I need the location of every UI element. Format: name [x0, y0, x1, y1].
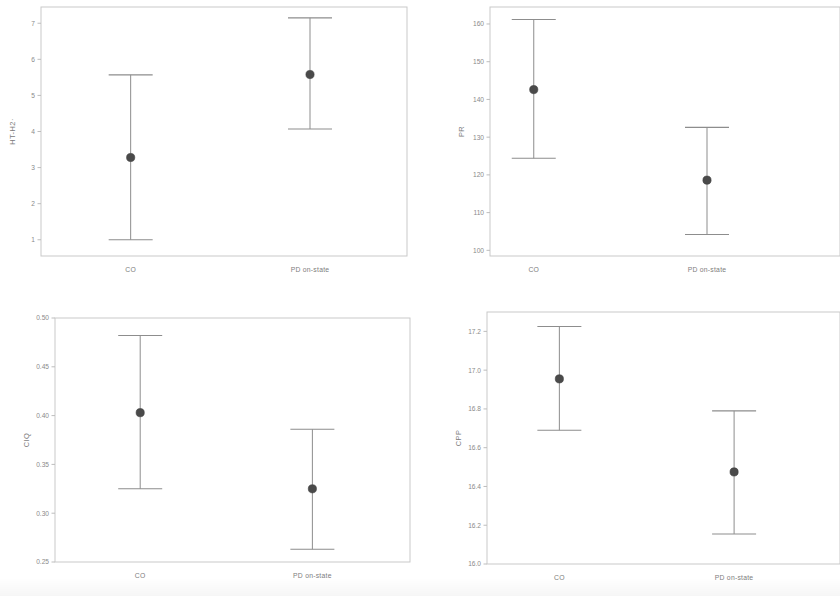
x-category-label: PD on-state: [688, 266, 727, 273]
y-tick-label: 110: [473, 209, 484, 216]
plot-frame: [490, 7, 840, 256]
plot-frame: [487, 312, 840, 564]
y-tick-label: 17.2: [468, 328, 481, 335]
plot-frame: [41, 7, 407, 256]
y-tick-label: 0.35: [36, 461, 49, 468]
y-tick-label: 1: [31, 236, 35, 243]
mean-marker: [703, 176, 711, 184]
y-axis-title: CPP: [454, 430, 463, 447]
mean-marker: [530, 86, 538, 94]
chart-panel-top-right: 100110120130140150160PRCOPD on-state: [420, 0, 840, 298]
y-tick-label: 2: [31, 200, 35, 207]
mean-marker: [136, 409, 144, 417]
y-axis-title: PR: [457, 126, 466, 137]
y-tick-label: 3: [31, 164, 35, 171]
x-category-label: CO: [528, 266, 539, 273]
chart-panel-bottom-right: 16.016.216.416.616.817.017.2CPPCOPD on-s…: [420, 298, 840, 596]
y-tick-label: 150: [473, 58, 484, 65]
y-tick-label: 100: [473, 247, 484, 254]
plot-frame: [55, 318, 410, 562]
x-category-label: CO: [125, 266, 136, 273]
y-tick-label: 17.0: [468, 367, 481, 374]
mean-marker: [306, 70, 314, 78]
y-tick-label: 120: [473, 171, 484, 178]
y-tick-label: 7: [31, 20, 35, 27]
y-tick-label: 130: [473, 134, 484, 141]
y-tick-label: 16.0: [468, 560, 481, 567]
y-tick-label: 16.8: [468, 405, 481, 412]
y-tick-label: 5: [31, 92, 35, 99]
y-axis-title: CIQ: [22, 433, 31, 448]
y-tick-label: 16.6: [468, 444, 481, 451]
y-tick-label: 0.25: [36, 558, 49, 565]
y-tick-label: 16.4: [468, 483, 481, 490]
mean-marker: [730, 468, 738, 476]
y-axis-title: HT-H2·: [8, 118, 17, 145]
plot-area-bottom-right: 16.016.216.416.616.817.017.2CPPCOPD on-s…: [420, 298, 840, 596]
y-tick-label: 140: [473, 96, 484, 103]
x-category-label: PD on-state: [715, 574, 754, 581]
y-tick-label: 6: [31, 56, 35, 63]
x-category-label: CO: [554, 574, 565, 581]
y-tick-label: 0.40: [36, 412, 49, 419]
y-tick-label: 16.2: [468, 522, 481, 529]
y-tick-label: 160: [473, 20, 484, 27]
mean-marker: [127, 153, 135, 161]
y-tick-label: 4: [31, 128, 35, 135]
x-category-label: PD on-state: [293, 572, 332, 579]
x-category-label: CO: [135, 572, 146, 579]
x-category-label: PD on-state: [291, 266, 330, 273]
plot-area-top-left: 1234567HT-H2·COPD on-state: [0, 0, 420, 298]
chart-panel-bottom-left: 0.250.300.350.400.450.50CIQCOPD on-state: [0, 298, 420, 596]
y-tick-label: 0.50: [36, 314, 49, 321]
chart-panel-grid: 1234567HT-H2·COPD on-state 1001101201301…: [0, 0, 840, 596]
mean-marker: [555, 375, 563, 383]
plot-area-top-right: 100110120130140150160PRCOPD on-state: [420, 0, 840, 298]
plot-area-bottom-left: 0.250.300.350.400.450.50CIQCOPD on-state: [0, 298, 420, 596]
chart-panel-top-left: 1234567HT-H2·COPD on-state: [0, 0, 420, 298]
mean-marker: [308, 485, 316, 493]
y-tick-label: 0.45: [36, 363, 49, 370]
y-tick-label: 0.30: [36, 510, 49, 517]
